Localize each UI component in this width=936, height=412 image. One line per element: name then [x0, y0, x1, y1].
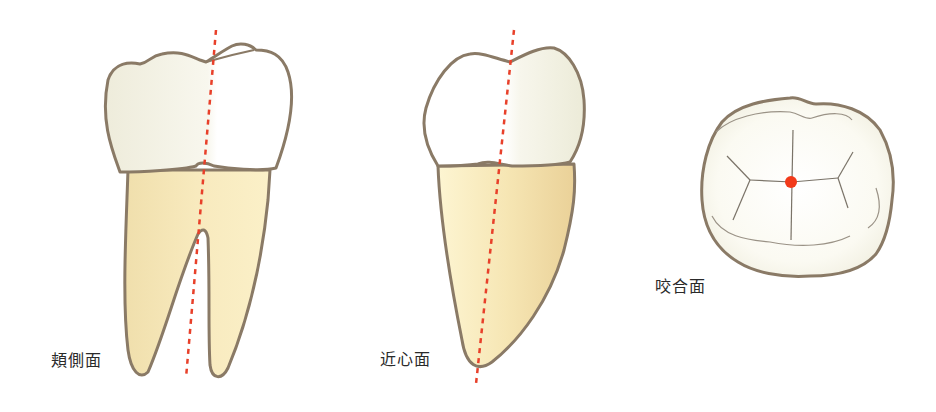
occlusal-view-tooth	[702, 98, 894, 277]
label-occlusal-view: 咬合面	[655, 273, 706, 297]
tooth-diagram	[0, 0, 936, 412]
buccal-view-tooth	[105, 30, 291, 378]
mesial-root	[438, 164, 575, 367]
occlusal-outline	[702, 98, 894, 277]
buccal-roots	[125, 170, 270, 377]
buccal-crown	[105, 44, 291, 172]
label-buccal-view: 頬側面	[51, 347, 102, 371]
central-fossa-dot	[785, 176, 797, 188]
mesial-crown	[424, 48, 584, 166]
label-mesial-view: 近心面	[380, 346, 431, 370]
mesial-view-tooth	[424, 30, 584, 384]
